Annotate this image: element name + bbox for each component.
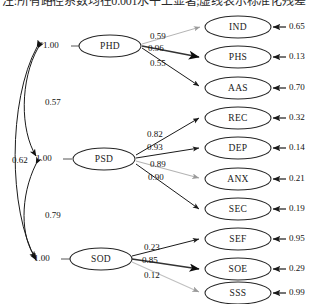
- loading-value-sec: 0.90: [148, 172, 164, 182]
- loading-path-sod-sss: [132, 262, 199, 292]
- loading-value-phs: 0.96: [148, 43, 164, 53]
- indicator-node-soe[interactable]: SOE: [205, 258, 271, 280]
- residual-value-sss: 0.99: [289, 287, 305, 297]
- indicator-node-anx[interactable]: ANX: [205, 168, 271, 190]
- loading-value-dep: 0.93: [147, 142, 163, 152]
- indicator-label-rec: REC: [228, 113, 247, 123]
- sem-path-diagram-page: 注:所有路径系数均在0.001水平上显著;虚线表示标准化残差 0.57 0.62…: [0, 0, 315, 304]
- loading-value-rec: 0.82: [147, 129, 163, 139]
- indicator-node-aas[interactable]: AAS: [205, 77, 271, 99]
- covariance-value-phd-sod: 0.62: [12, 155, 28, 165]
- residual-value-ind: 0.65: [289, 21, 305, 31]
- indicator-node-sss[interactable]: SSS: [205, 282, 271, 304]
- indicator-label-phs: PHS: [229, 52, 247, 62]
- loading-path-sod-sef: [132, 239, 199, 256]
- latent-node-phd[interactable]: PHD: [79, 35, 141, 57]
- loading-value-anx: 0.89: [150, 159, 166, 169]
- covariance-curve-phd-sod: [15, 47, 37, 260]
- variance-value-sod: 1.00: [34, 253, 50, 263]
- loading-value-sss: 0.12: [144, 270, 160, 280]
- latent-label-psd: PSD: [95, 154, 113, 164]
- latent-label-phd: PHD: [100, 41, 120, 51]
- indicator-node-phs[interactable]: PHS: [205, 46, 271, 68]
- path-diagram-canvas: 0.57 0.62 0.79 1.00 1.00 1.00 0.59 0.96 …: [0, 0, 315, 304]
- residual-value-rec: 0.32: [289, 112, 305, 122]
- residual-value-sec: 0.19: [289, 203, 305, 213]
- indicator-node-rec[interactable]: REC: [205, 107, 271, 129]
- residual-value-anx: 0.21: [289, 173, 305, 183]
- covariance-value-psd-sod: 0.79: [45, 210, 61, 220]
- residual-value-dep: 0.14: [289, 142, 305, 152]
- loading-path-psd-sec: [136, 164, 199, 209]
- loading-value-aas: 0.55: [150, 58, 166, 68]
- loading-value-ind: 0.59: [150, 31, 166, 41]
- latent-label-sod: SOD: [91, 254, 111, 264]
- indicator-label-sec: SEC: [229, 204, 247, 214]
- residual-value-aas: 0.70: [289, 82, 305, 92]
- indicator-label-aas: AAS: [228, 83, 248, 93]
- loading-value-soe: 0.85: [142, 255, 158, 265]
- indicator-node-sef[interactable]: SEF: [205, 228, 271, 250]
- indicator-node-ind[interactable]: IND: [205, 16, 271, 38]
- covariance-value-phd-psd: 0.57: [45, 97, 61, 107]
- covariance-curve-psd-sod: [24, 164, 36, 258]
- covariance-curve-phd-psd: [24, 48, 38, 156]
- indicator-label-soe: SOE: [229, 264, 248, 274]
- residual-value-sef: 0.95: [289, 233, 305, 243]
- loading-path-psd-anx: [136, 161, 199, 178]
- indicator-label-sef: SEF: [229, 234, 246, 244]
- residual-value-phs: 0.13: [289, 51, 305, 61]
- indicator-label-sss: SSS: [230, 288, 247, 298]
- indicator-node-sec[interactable]: SEC: [205, 198, 271, 220]
- indicator-label-dep: DEP: [229, 143, 248, 153]
- loading-value-sef: 0.23: [144, 242, 160, 252]
- latent-node-psd[interactable]: PSD: [73, 148, 135, 170]
- variance-value-phd: 1.00: [43, 40, 59, 50]
- variance-value-psd: 1.00: [36, 153, 52, 163]
- indicator-label-ind: IND: [229, 22, 247, 32]
- indicator-label-anx: ANX: [227, 174, 248, 184]
- indicator-node-dep[interactable]: DEP: [205, 137, 271, 159]
- latent-node-sod[interactable]: SOD: [70, 248, 132, 270]
- residual-value-soe: 0.29: [289, 263, 305, 273]
